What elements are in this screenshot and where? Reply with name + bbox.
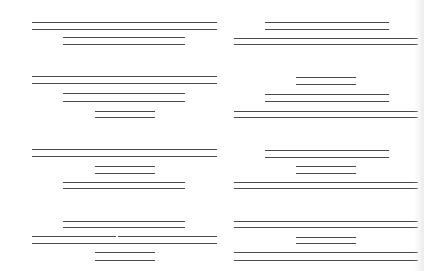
line-segment-r4-right-short-b (296, 243, 356, 244)
line-segment-r2-left-med-b (63, 101, 185, 102)
line-segment-r1-right-med-b (265, 29, 389, 30)
line-segment-r4-left-med-b (63, 227, 185, 228)
line-segment-r3-right-long-b (234, 188, 418, 189)
line-segment-r1-right-long-a (234, 38, 418, 39)
line-segment-r3-left-long-b (32, 156, 217, 157)
line-gap-r4-left-long-a-gap (116, 235, 118, 237)
line-segment-r3-right-short-a (296, 166, 356, 167)
line-segment-r2-right-short-b (296, 84, 356, 85)
line-segment-r3-right-long-a (234, 182, 418, 183)
line-segment-r3-left-long-a (32, 149, 217, 150)
line-segment-r3-right-short-b (296, 173, 356, 174)
line-segment-r2-right-long-a (234, 111, 418, 112)
line-segment-r4-right-long-a (234, 221, 418, 222)
line-segment-r1-left-long-b (32, 29, 217, 30)
line-segment-r2-right-long-b (234, 117, 418, 118)
line-segment-r1-right-med-a (265, 22, 389, 23)
line-segment-r4-left-med-a (63, 221, 185, 222)
line-segment-r3-left-short-a (95, 166, 155, 167)
line-segment-r3-right-med-b (265, 157, 389, 158)
line-segment-r2-left-short-b (95, 117, 155, 118)
line-segment-r1-left-med-a (63, 37, 185, 38)
line-segment-r4-right-short-a (296, 237, 356, 238)
line-segment-r3-left-med-a (63, 182, 185, 183)
line-segment-r3-left-med-b (63, 188, 185, 189)
line-segment-r2-right-short-a (296, 77, 356, 78)
line-segment-r1-left-med-b (63, 44, 185, 45)
line-segment-r2-right-med-b (265, 101, 389, 102)
line-segment-r2-left-long-a (32, 76, 217, 77)
line-segment-r4-left-short-b (95, 260, 155, 261)
line-segment-r4-right-long2-b (234, 260, 418, 261)
line-segment-r4-left-long-a (32, 236, 217, 237)
line-segment-r4-right-long2-a (234, 252, 418, 253)
line-segment-r4-right-long-b (234, 227, 418, 228)
line-segment-r4-left-short-a (95, 252, 155, 253)
line-segment-r4-left-long-b (32, 243, 217, 244)
line-segment-r3-right-med-a (265, 150, 389, 151)
line-segment-r2-left-short-a (95, 111, 155, 112)
line-segment-r2-left-long-b (32, 83, 217, 84)
line-segment-r2-left-med-a (63, 93, 185, 94)
line-segment-r1-right-long-b (234, 44, 418, 45)
scan-edge-shadow (414, 0, 424, 271)
line-segment-r2-right-med-a (265, 94, 389, 95)
line-segment-r3-left-short-b (95, 173, 155, 174)
line-segment-r1-left-long-a (32, 22, 217, 23)
